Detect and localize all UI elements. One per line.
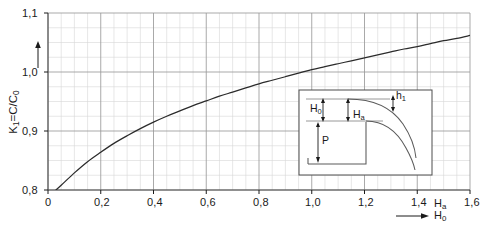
x-tick-label-0-2: 0,2: [94, 196, 110, 208]
chart-figure: 1,1 1,0 0,9 0,8 K1=C/C0 0 0,2 0,4 0,6 0,…: [0, 0, 493, 242]
y-axis-title: K1=C/C0: [2, 76, 24, 148]
x-axis-title: Ha H0: [434, 198, 446, 221]
inset-label-p: P: [322, 134, 329, 146]
y-axis-direction-arrow: [35, 41, 41, 68]
x-tick-label-0-8: 0,8: [253, 196, 269, 208]
x-tick-label-0-4: 0,4: [147, 196, 163, 208]
x-tick-label-0-6: 0,6: [200, 196, 216, 208]
x-tick-label-1-0: 1,0: [305, 196, 321, 208]
x-axis-direction-arrow: [396, 213, 429, 219]
y-tick-label-1-1: 1,1: [22, 7, 38, 19]
x-tick-label-0: 0: [45, 196, 51, 208]
x-tick-label-1-4: 1,4: [411, 196, 427, 208]
y-tick-label-0-9: 0,9: [22, 125, 38, 137]
y-tick-label-1-0: 1,0: [22, 66, 38, 78]
y-tick-label-0-8: 0,8: [22, 184, 38, 196]
x-tick-label-1-6: 1,6: [464, 196, 480, 208]
x-axis-title-denominator: H0: [434, 210, 446, 222]
x-tick-label-1-2: 1,2: [358, 196, 374, 208]
inset-label-h0: H0: [310, 102, 322, 114]
inset-label-h1: h1: [396, 89, 406, 101]
y-axis-title-text: K1=C/C0: [7, 90, 19, 133]
inset-label-ha: Ha: [353, 108, 365, 120]
x-axis-title-numerator: Ha: [434, 198, 446, 210]
